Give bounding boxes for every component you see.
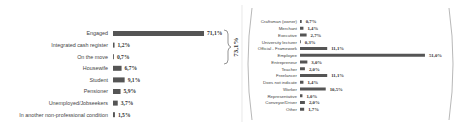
bar bbox=[300, 61, 307, 64]
value-label: 1,2% bbox=[118, 42, 131, 48]
bar bbox=[113, 89, 121, 94]
bar-row: Freelancer11,1% bbox=[276, 73, 344, 78]
category-label: Official - Framework bbox=[258, 46, 298, 51]
category-label: Craftsman (owner) bbox=[261, 19, 298, 24]
value-label: 0,7% bbox=[117, 54, 130, 60]
bar-row: Housewife6,7% bbox=[83, 65, 138, 71]
value-label: 1,7% bbox=[308, 107, 319, 112]
total-label: 73,1% bbox=[232, 37, 240, 56]
right-parenthesis bbox=[449, 8, 453, 120]
bar bbox=[300, 101, 305, 104]
value-label: 11,1% bbox=[331, 73, 344, 78]
value-label: 0,7% bbox=[306, 19, 317, 24]
value-label: 71,1% bbox=[207, 30, 223, 36]
bar-row: Engaged71,1% bbox=[86, 30, 222, 36]
bar bbox=[113, 43, 115, 48]
category-label: University lecturer bbox=[262, 40, 298, 45]
value-label: 1,4% bbox=[307, 80, 318, 85]
bar-row: On the move0,7% bbox=[77, 54, 130, 60]
bar bbox=[300, 81, 303, 84]
value-label: 1,5% bbox=[118, 112, 131, 118]
value-label: 6,7% bbox=[125, 65, 138, 71]
value-label: 3,0% bbox=[311, 60, 322, 65]
chart-canvas: Engaged71,1%Integrated cash register1,2%… bbox=[0, 0, 467, 127]
total-bracket: 73,1% bbox=[224, 30, 240, 64]
bar-row: In another non-professional condition1,5… bbox=[19, 112, 131, 118]
value-label: 3,7% bbox=[121, 100, 134, 106]
bar-row: Official - Framework11,1% bbox=[258, 46, 345, 51]
value-label: 1,4% bbox=[307, 26, 318, 31]
category-label: Engaged bbox=[86, 30, 108, 36]
category-label: Worker bbox=[283, 87, 298, 92]
bar bbox=[300, 108, 304, 111]
bar-row: Conveyor/Driver2,0% bbox=[265, 100, 320, 105]
category-label: Unemployed/Jobseekers bbox=[49, 100, 109, 106]
value-label: 5,9% bbox=[124, 88, 137, 94]
value-label: 10,5% bbox=[330, 87, 343, 92]
category-label: Does not indicate bbox=[263, 80, 297, 85]
bar-row: Entrepreneur3,0% bbox=[271, 60, 322, 65]
value-label: 2,7% bbox=[311, 33, 322, 38]
category-label: Merchant bbox=[279, 26, 298, 31]
bar bbox=[300, 88, 326, 91]
category-label: Pensioner bbox=[84, 88, 108, 94]
bar bbox=[300, 47, 327, 50]
category-label: Executive bbox=[278, 33, 298, 38]
bar-row: Teacher2,0% bbox=[281, 67, 320, 72]
category-label: Freelancer bbox=[276, 73, 298, 78]
bar-row: University lecturer0,3% bbox=[262, 40, 316, 45]
bar-row: Worker10,5% bbox=[283, 87, 343, 92]
bar bbox=[300, 54, 425, 57]
bar bbox=[300, 94, 302, 97]
bar bbox=[300, 74, 327, 77]
bar bbox=[113, 112, 115, 117]
bar-row: Craftsman (owner)0,7% bbox=[261, 19, 317, 24]
value-label: 0,3% bbox=[305, 40, 316, 45]
bar bbox=[300, 67, 305, 70]
bar bbox=[113, 66, 122, 71]
value-label: 2,0% bbox=[309, 67, 320, 72]
bar bbox=[300, 27, 303, 30]
bar-row: Pensioner5,9% bbox=[84, 88, 137, 94]
category-label: Student bbox=[89, 77, 108, 83]
left-chart: Engaged71,1%Integrated cash register1,2%… bbox=[19, 30, 223, 117]
bar-row: Student9,1% bbox=[89, 77, 140, 83]
category-label: On the move bbox=[77, 54, 108, 60]
category-label: Employee bbox=[277, 53, 297, 58]
bar-row: Integrated cash register1,2% bbox=[51, 42, 130, 48]
bar-row: Representative1,0% bbox=[267, 94, 317, 99]
right-chart: Craftsman (owner)0,7%Merchant1,4%Executi… bbox=[258, 19, 443, 112]
bar bbox=[300, 40, 301, 43]
category-label: Conveyor/Driver bbox=[265, 100, 297, 105]
value-label: 2,0% bbox=[309, 100, 320, 105]
category-label: Entrepreneur bbox=[271, 60, 297, 65]
bar bbox=[113, 101, 118, 106]
bar-row: Does not indicate1,4% bbox=[263, 80, 318, 85]
bar bbox=[113, 31, 204, 36]
bar-row: Employee51,0% bbox=[277, 53, 442, 58]
bar-row: Other1,7% bbox=[286, 107, 319, 112]
category-label: Teacher bbox=[281, 67, 297, 72]
bar bbox=[300, 20, 302, 23]
curly-brace bbox=[224, 30, 231, 64]
value-label: 9,1% bbox=[128, 77, 141, 83]
bar bbox=[300, 34, 307, 37]
value-label: 1,0% bbox=[306, 94, 317, 99]
category-label: Representative bbox=[267, 94, 297, 99]
left-parenthesis bbox=[248, 8, 252, 120]
bar-row: Unemployed/Jobseekers3,7% bbox=[49, 100, 134, 106]
bar-row: Executive2,7% bbox=[278, 33, 322, 38]
bar-row: Merchant1,4% bbox=[279, 26, 319, 31]
value-label: 51,0% bbox=[429, 53, 442, 58]
bar bbox=[113, 54, 114, 59]
value-label: 11,1% bbox=[331, 46, 344, 51]
category-label: Other bbox=[286, 107, 298, 112]
category-label: In another non-professional condition bbox=[19, 112, 108, 118]
category-label: Housewife bbox=[83, 65, 108, 71]
bar bbox=[113, 77, 125, 82]
category-label: Integrated cash register bbox=[51, 42, 108, 48]
